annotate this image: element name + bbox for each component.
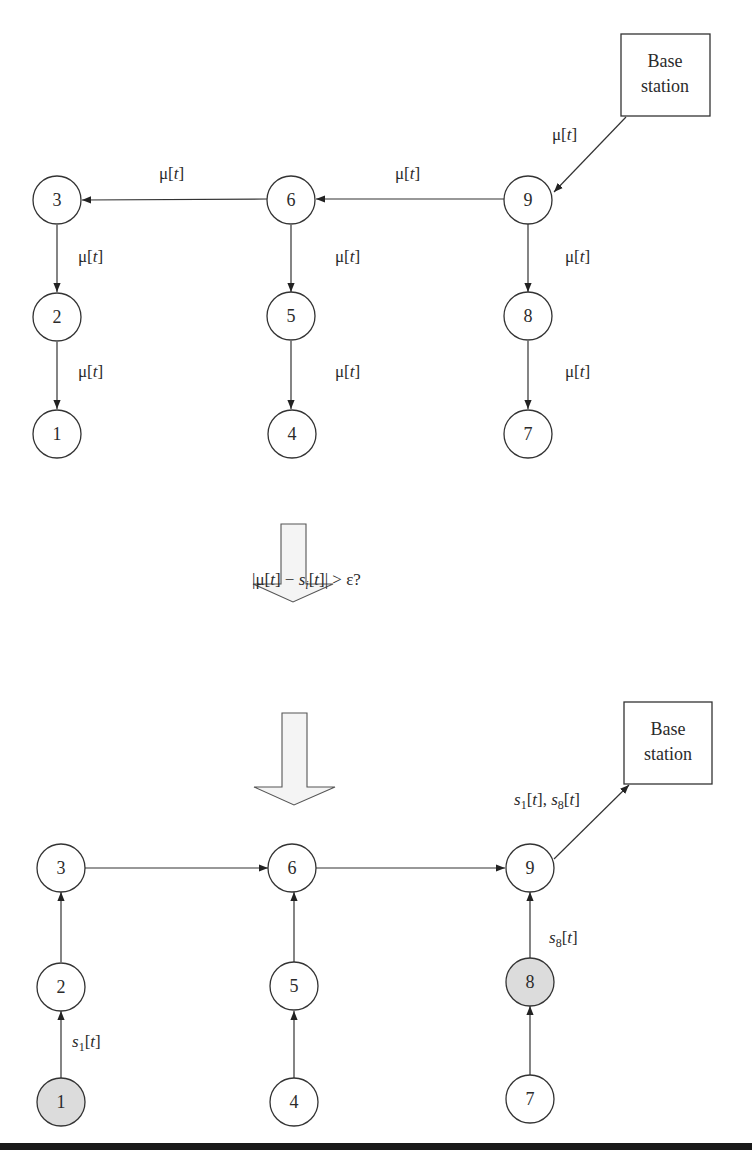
svg-text:6: 6 [288, 858, 297, 878]
svg-text:3: 3 [53, 190, 62, 210]
edge-label-3-2: μ[t] [78, 247, 103, 266]
svg-text:3: 3 [57, 858, 66, 878]
bottom-node-8-highlighted: 8 [506, 958, 554, 1006]
edge-label-9-6: μ[t] [395, 164, 420, 183]
svg-text:7: 7 [524, 424, 533, 444]
svg-text:9: 9 [526, 858, 535, 878]
base-station-top-line1: Base [648, 51, 683, 71]
diagram-canvas: Base station μ[t] μ[t] μ[t] μ[t] μ[t] μ[… [0, 0, 752, 1161]
svg-text:5: 5 [290, 976, 299, 996]
top-node-9: 9 [504, 176, 552, 224]
down-arrow-icon-2 [254, 713, 335, 805]
bottom-node-4: 4 [270, 1078, 318, 1126]
bottom-node-9: 9 [506, 844, 554, 892]
svg-text:2: 2 [53, 307, 62, 327]
bottom-node-5: 5 [270, 962, 318, 1010]
base-station-top-line2: station [641, 76, 689, 96]
edge-label-8-7: μ[t] [565, 362, 590, 381]
svg-text:4: 4 [288, 424, 297, 444]
base-station-bottom-line1: Base [651, 719, 686, 739]
svg-text:4: 4 [290, 1092, 299, 1112]
edge-label-1-2: s1[t] [72, 1032, 101, 1054]
edge-label-2-1: μ[t] [78, 362, 103, 381]
base-station-bottom: Base station [624, 702, 712, 784]
top-node-7: 7 [504, 410, 552, 458]
bottom-node-3: 3 [37, 844, 85, 892]
top-node-5: 5 [267, 292, 315, 340]
edge-label-6-5: μ[t] [335, 247, 360, 266]
svg-text:1: 1 [57, 1092, 66, 1112]
base-station-bottom-line2: station [644, 744, 692, 764]
edge-6-3 [82, 199, 267, 200]
top-node-8: 8 [504, 292, 552, 340]
svg-text:9: 9 [524, 190, 533, 210]
svg-text:8: 8 [524, 306, 533, 326]
down-arrow-icon-1 [253, 524, 333, 602]
svg-text:2: 2 [57, 977, 66, 997]
svg-text:8: 8 [526, 972, 535, 992]
top-node-1: 1 [33, 410, 81, 458]
edge-label-bs-9: μ[t] [552, 125, 577, 144]
edge-label-9-8: μ[t] [565, 247, 590, 266]
bottom-node-1-highlighted: 1 [37, 1078, 85, 1126]
top-node-6: 6 [267, 176, 315, 224]
edge-label-9-bs: s1[t], s8[t] [514, 790, 580, 812]
svg-text:1: 1 [53, 424, 62, 444]
top-diagram: Base station μ[t] μ[t] μ[t] μ[t] μ[t] μ[… [33, 34, 710, 458]
svg-text:7: 7 [526, 1089, 535, 1109]
base-station-top: Base station [621, 34, 710, 116]
bottom-node-7: 7 [506, 1075, 554, 1123]
bottom-node-6: 6 [268, 844, 316, 892]
bottom-rule [0, 1143, 752, 1150]
top-node-3: 3 [33, 176, 81, 224]
edge-label-5-4: μ[t] [335, 362, 360, 381]
svg-text:5: 5 [287, 306, 296, 326]
top-node-2: 2 [33, 293, 81, 341]
svg-text:6: 6 [287, 190, 296, 210]
top-node-4: 4 [268, 410, 316, 458]
edge-label-8-9: s8[t] [549, 928, 578, 950]
bottom-diagram: Base station s1[t] s8[t] s1[t], s8[t] 3 … [37, 702, 712, 1126]
edge-label-6-3: μ[t] [159, 164, 184, 183]
bottom-node-2: 2 [37, 963, 85, 1011]
